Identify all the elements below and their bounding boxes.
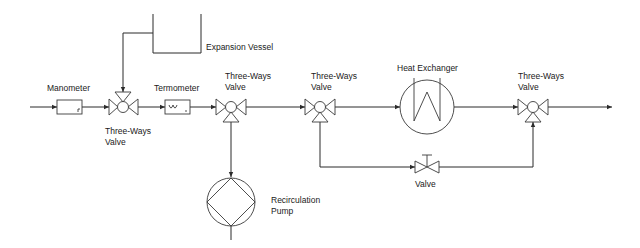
pipe-bypass-valve4 [439, 122, 533, 167]
termometer[interactable]: Termometer [154, 83, 200, 114]
expansion-vessel-body [153, 14, 201, 53]
manometer[interactable]: Manometer [47, 83, 90, 114]
termometer-label: Termometer [154, 83, 200, 93]
valve2-left-wing [216, 99, 226, 115]
valve4-label-line1: Three-Ways [518, 71, 564, 81]
pump-casing [207, 178, 255, 226]
valve1-ball [118, 102, 129, 113]
valve3-label-line2: Valve [311, 82, 332, 92]
valve1-right-wing [128, 99, 138, 115]
heat-exchanger[interactable]: Heat Exchanger [397, 63, 458, 134]
valve1-label-line2: Valve [105, 137, 126, 147]
valve2-right-wing [236, 99, 246, 115]
heat-exchanger-label: Heat Exchanger [397, 63, 458, 73]
expansion-vessel-label: Expansion Vessel [206, 42, 273, 52]
valve4-left-wing [518, 99, 528, 115]
heat-exchanger-shell [400, 80, 454, 134]
expansion-vessel[interactable]: Expansion Vessel [153, 14, 273, 53]
pump-label-line2: Pump [271, 206, 293, 216]
valve2-label-line1: Three-Ways [225, 71, 271, 81]
pipe-expansion-valve1 [123, 33, 153, 92]
valve3-right-wing [325, 99, 335, 115]
bypass-valve-right [427, 161, 439, 173]
valve2-ball [226, 102, 237, 113]
valve1-top-wing [115, 92, 131, 102]
three-way-valve-2[interactable]: Three-Ways Valve [216, 71, 271, 122]
valve4-right-wing [538, 99, 548, 115]
valve4-bottom-wing [525, 112, 541, 122]
valve4-label-line2: Valve [518, 82, 539, 92]
bypass-valve-label: Valve [415, 179, 436, 189]
valve3-label-line1: Three-Ways [311, 71, 357, 81]
valve1-label-line1: Three-Ways [105, 126, 151, 136]
pipe-valve3-bypass [320, 122, 415, 167]
valve3-bottom-wing [312, 112, 328, 122]
valve2-bottom-wing [223, 112, 239, 122]
valve2-label-line2: Valve [225, 82, 246, 92]
three-way-valve-4[interactable]: Three-Ways Valve [518, 71, 564, 122]
valve1-left-wing [109, 99, 118, 115]
process-diagram: Manometer Three-Ways Valve Expansion Ves… [0, 0, 640, 248]
valve3-left-wing [305, 99, 315, 115]
three-way-valve-3[interactable]: Three-Ways Valve [305, 71, 357, 122]
valve3-ball [315, 102, 326, 113]
recirculation-pump[interactable]: Recirculation Pump [207, 178, 320, 226]
bypass-valve[interactable]: Valve [415, 155, 439, 189]
three-way-valve-1[interactable]: Three-Ways Valve [105, 92, 151, 147]
valve4-ball [528, 102, 539, 113]
pump-label-line1: Recirculation [271, 195, 320, 205]
bypass-valve-left [415, 161, 427, 173]
manometer-label: Manometer [47, 83, 90, 93]
